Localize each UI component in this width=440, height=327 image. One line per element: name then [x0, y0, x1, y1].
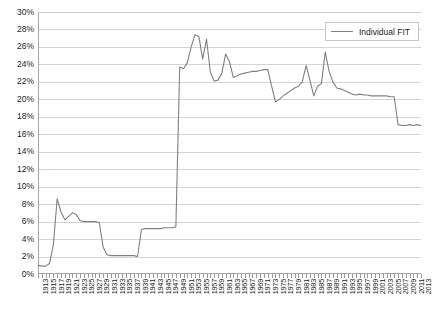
x-axis-tick	[295, 274, 296, 278]
x-axis-tick	[164, 274, 165, 278]
y-axis-tick-label: 2%	[0, 251, 34, 261]
x-axis-tick	[348, 274, 349, 278]
x-axis-tick	[356, 274, 357, 278]
x-axis-tick	[318, 274, 319, 278]
x-axis-tick	[195, 274, 196, 278]
x-axis-tick	[287, 274, 288, 278]
x-axis-tick	[245, 274, 246, 278]
x-axis-tick	[80, 274, 81, 278]
x-axis-tick	[417, 274, 418, 278]
x-axis-tick	[199, 274, 200, 278]
x-axis-tick	[310, 274, 311, 278]
x-axis-tick	[325, 274, 326, 278]
x-axis-tick	[88, 274, 89, 278]
y-axis-tick-label: 0%	[0, 269, 34, 279]
x-axis-tick	[268, 274, 269, 278]
x-axis-tick	[134, 274, 135, 278]
x-axis-tick-label: 2013	[424, 279, 433, 294]
x-axis-tick	[413, 274, 414, 278]
x-axis-tick	[298, 274, 299, 278]
x-axis-tick	[344, 274, 345, 278]
x-axis-tick	[233, 274, 234, 278]
x-axis-tick	[115, 274, 116, 278]
x-axis-tick	[42, 274, 43, 278]
y-axis-tick-label: 4%	[0, 234, 34, 244]
x-axis-tick	[107, 274, 108, 278]
x-axis-tick	[364, 274, 365, 278]
chart-legend: Individual FIT	[325, 22, 419, 41]
y-axis-tick-label: 12%	[0, 164, 34, 174]
x-axis-tick	[249, 274, 250, 278]
x-axis-tick	[341, 274, 342, 278]
x-axis-tick	[226, 274, 227, 278]
x-axis-tick	[130, 274, 131, 278]
x-axis-tick	[49, 274, 50, 278]
x-axis-tick	[375, 274, 376, 278]
x-axis-tick	[379, 274, 380, 278]
x-axis-tick	[333, 274, 334, 278]
x-axis-tick	[149, 274, 150, 278]
x-axis-tick	[230, 274, 231, 278]
x-axis-tick	[371, 274, 372, 278]
x-axis-tick	[360, 274, 361, 278]
y-axis-tick-label: 18%	[0, 111, 34, 121]
x-axis-tick	[161, 274, 162, 278]
x-axis-tick	[103, 274, 104, 278]
x-axis-tick	[138, 274, 139, 278]
x-axis-tick	[260, 274, 261, 278]
x-axis-tick	[72, 274, 73, 278]
x-axis-tick	[390, 274, 391, 278]
x-axis-tick	[111, 274, 112, 278]
x-axis-tick	[53, 274, 54, 278]
x-axis-tick	[126, 274, 127, 278]
x-axis-tick	[398, 274, 399, 278]
x-axis-tick	[168, 274, 169, 278]
x-axis-tick	[337, 274, 338, 278]
x-axis-tick	[279, 274, 280, 278]
x-axis-tick	[406, 274, 407, 278]
x-axis-tick	[203, 274, 204, 278]
x-axis-tick	[237, 274, 238, 278]
y-axis-tick-label: 14%	[0, 146, 34, 156]
x-axis-tick	[264, 274, 265, 278]
x-axis-tick	[387, 274, 388, 278]
x-axis-tick	[383, 274, 384, 278]
x-axis-tick	[187, 274, 188, 278]
y-axis-tick-label: 24%	[0, 59, 34, 69]
x-axis-tick	[218, 274, 219, 278]
x-axis-labels: 1913191519171919192119231925192719291931…	[38, 279, 421, 325]
x-axis-tick	[95, 274, 96, 278]
x-axis-tick	[207, 274, 208, 278]
x-axis-tick	[421, 274, 422, 278]
x-axis-tick	[272, 274, 273, 278]
x-axis-tick	[410, 274, 411, 278]
series-individual-fit	[38, 12, 421, 274]
x-axis-tick	[222, 274, 223, 278]
x-axis-tick	[118, 274, 119, 278]
x-axis-tick	[283, 274, 284, 278]
x-axis-tick	[69, 274, 70, 278]
x-axis-tick	[76, 274, 77, 278]
x-axis-tick	[402, 274, 403, 278]
legend-line-swatch-icon	[331, 31, 353, 32]
x-axis-tick	[180, 274, 181, 278]
x-axis-tick	[367, 274, 368, 278]
y-axis-tick-label: 16%	[0, 129, 34, 139]
y-axis-tick-label: 20%	[0, 94, 34, 104]
x-axis-tick	[291, 274, 292, 278]
x-axis-tick	[241, 274, 242, 278]
x-axis-tick	[329, 274, 330, 278]
y-axis-tick-label: 26%	[0, 41, 34, 51]
x-axis-tick	[65, 274, 66, 278]
x-axis-tick	[214, 274, 215, 278]
x-axis-tick	[57, 274, 58, 278]
x-axis-tick	[172, 274, 173, 278]
y-axis-tick-label: 8%	[0, 199, 34, 209]
y-axis-tick-label: 28%	[0, 24, 34, 34]
x-axis-tick	[46, 274, 47, 278]
legend-label-individual-fit: Individual FIT	[359, 27, 410, 37]
x-axis-tick	[92, 274, 93, 278]
x-axis-tick	[394, 274, 395, 278]
line-path-individual-fit	[38, 35, 421, 266]
x-axis-tick	[314, 274, 315, 278]
